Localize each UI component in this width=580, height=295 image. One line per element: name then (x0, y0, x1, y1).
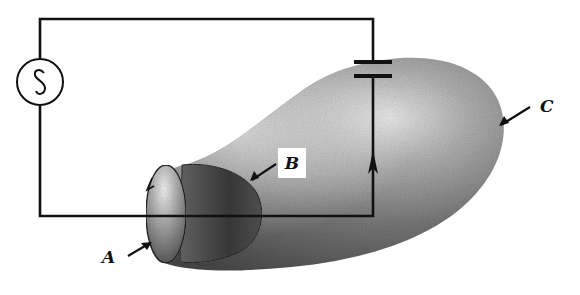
label-a: A (102, 247, 115, 267)
label-b: B (278, 148, 306, 178)
label-c: C (540, 96, 554, 116)
wire-top (40, 19, 373, 62)
ac-source-icon (17, 59, 63, 105)
